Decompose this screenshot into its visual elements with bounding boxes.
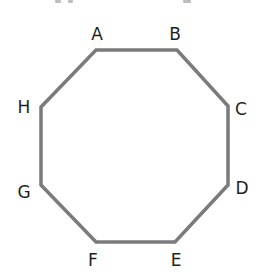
octagon-outline: [41, 50, 228, 242]
cropped-text-fragment: [55, 0, 61, 3]
vertex-label-h: H: [18, 99, 31, 116]
vertex-label-d: D: [235, 180, 248, 197]
octagon-diagram: [0, 0, 262, 272]
vertex-label-c: C: [235, 101, 247, 118]
cropped-text-fragment: [183, 0, 191, 3]
vertex-label-e: E: [171, 252, 182, 269]
vertex-label-f: F: [88, 252, 98, 269]
vertex-label-g: G: [17, 184, 30, 201]
vertex-label-b: B: [169, 26, 181, 43]
cropped-text-fragment: [68, 0, 73, 3]
vertex-label-a: A: [91, 26, 103, 43]
